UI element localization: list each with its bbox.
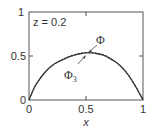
svg-text:Φ: Φ [96,33,105,47]
chart: 1 0.5 0 0 0.5 1 x z = 0.2 Φ Φ3 [0,0,151,133]
y-tick-label-1: 1 [18,6,24,18]
y-tick-label-0.5: 0.5 [11,50,26,62]
svg-text:Φ3: Φ3 [64,68,77,84]
z-annotation: z = 0.2 [33,16,66,28]
annotation-phi3: Φ3 [64,55,86,84]
x-tick-label-0: 0 [26,103,32,115]
curve-phi3 [29,52,143,100]
x-tick-label-0.5: 0.5 [78,103,93,115]
curve-phi [29,53,143,100]
annotation-phi: Φ [88,33,105,53]
x-axis-title: x [82,116,89,128]
x-tick-label-1: 1 [140,103,146,115]
